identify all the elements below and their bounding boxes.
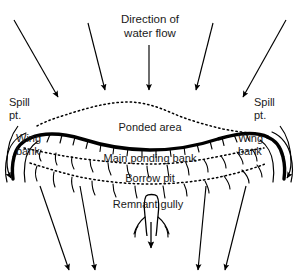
ponded-area-label: Ponded area [104, 121, 196, 134]
inflow-arrow-2 [88, 23, 105, 90]
inflow-arrow-1 [14, 20, 58, 97]
main-ponding-bank-line [30, 133, 268, 150]
outflow-arrow-4 [225, 186, 246, 270]
wing-bank-right-label: Wing bank [238, 132, 276, 158]
remnant-gully-label: Remnant gully [89, 198, 207, 211]
inflow-arrow-5 [243, 20, 286, 97]
direction-of-water-flow-label: Direction of water flow [104, 12, 196, 40]
main-ponding-bank-label: Main ponding bank [88, 152, 212, 165]
wing-bank-left-label: Wing bank [16, 132, 52, 158]
water-ponding-bank-diagram: Direction of water flow Spill pt. Spill … [0, 0, 299, 280]
borrow-pit-label: Borrow pit [105, 172, 195, 185]
inflow-arrow-4 [196, 23, 213, 90]
spill-point-right-label: Spill pt. [254, 96, 294, 121]
outflow-arrow-1 [40, 186, 69, 270]
spill-point-left-label: Spill pt. [9, 96, 47, 121]
